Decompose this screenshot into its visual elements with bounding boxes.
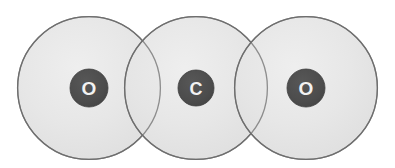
atom-oxygen-left[interactable]: O — [70, 69, 108, 107]
atom-oxygen-right[interactable]: O — [287, 69, 325, 107]
atom-carbon-center[interactable]: C — [178, 70, 214, 106]
diagram-canvas: O C O — [0, 0, 395, 168]
co2-molecule-diagram: O C O — [0, 0, 395, 168]
atom-label-oxygen-left: O — [82, 78, 97, 99]
atom-label-oxygen-right: O — [299, 78, 314, 99]
atom-label-carbon-center: C — [190, 79, 203, 99]
